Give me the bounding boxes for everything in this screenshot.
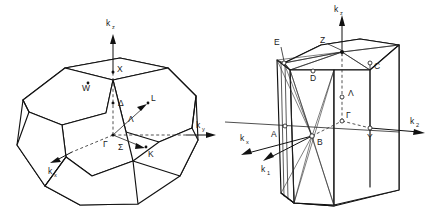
line-label-Lambda: Λ	[128, 114, 134, 124]
axis-label-k1-sub: 1	[267, 170, 270, 176]
point-Y-marker	[368, 126, 372, 130]
axis-label-k1-base: k	[261, 164, 266, 174]
point-delta-marker	[112, 102, 115, 105]
point-x-marker	[112, 71, 115, 74]
orthorhombic-zone-drawing: k z k 2 k x k 1	[224, 0, 447, 218]
axis-label-kz-base: k	[334, 4, 339, 14]
leader-E	[281, 47, 284, 61]
axis-label-kz-sub: z	[112, 24, 115, 30]
orthorhombic-brillouin-zone-panel: k z k 2 k x k 1	[224, 0, 447, 218]
point-label-Gamma: Γ	[346, 110, 351, 120]
line-label-Lambda: Λ	[348, 88, 354, 98]
axis-kz-arrowhead	[110, 34, 116, 44]
axis-label-kz-base: k	[106, 18, 111, 28]
point-label-Gamma: Γ	[103, 139, 108, 149]
point-label-E: E	[274, 37, 280, 47]
point-C-marker	[368, 61, 372, 65]
point-label-K: K	[148, 149, 154, 159]
point-label-C: C	[374, 61, 380, 71]
axis-kx-arrowhead	[241, 148, 252, 155]
point-label-A: A	[271, 129, 277, 139]
point-B-marker	[310, 134, 314, 138]
point-label-Y: Y	[367, 132, 373, 142]
point-label-X: X	[117, 64, 123, 74]
brillouin-zone-figure: k z k y k x	[0, 0, 447, 218]
fcc-brillouin-zone-panel: k z k y k x	[0, 0, 224, 218]
point-Gamma-marker	[340, 119, 344, 123]
axis-label-kx-sub: x	[54, 172, 57, 178]
axis-ky-arrowhead	[206, 132, 216, 138]
axis-label-k2-sub: 2	[416, 122, 419, 128]
axis-label-ky-sub: y	[202, 126, 205, 132]
axis-kz-arrowhead	[339, 15, 345, 26]
line-label-Delta: Δ	[118, 98, 124, 108]
axis-label-k2-base: k	[410, 116, 415, 126]
point-label-W: W	[82, 83, 90, 93]
point-E-marker	[282, 61, 286, 65]
point-label-Z: Z	[320, 35, 325, 45]
fcc-zone-drawing: k z k y k x	[0, 0, 224, 218]
point-Z-marker	[340, 50, 344, 54]
axis-k2-arrowhead	[413, 129, 425, 135]
point-k-marker	[145, 146, 148, 149]
point-label-L: L	[151, 93, 156, 103]
point-label-B: B	[317, 137, 323, 147]
point-A-marker	[283, 124, 287, 128]
point-l-marker	[147, 102, 150, 105]
point-Lambda-marker	[340, 95, 344, 99]
axis-k1-arrowhead	[263, 152, 274, 161]
point-gamma-marker	[111, 133, 114, 136]
axis-label-kx-sub: x	[246, 139, 249, 145]
line-label-Sigma: Σ	[118, 142, 123, 152]
axis-label-kx-base: k	[240, 133, 245, 143]
axis-label-ky-base: k	[196, 120, 201, 130]
axis-label-kz-sub: z	[340, 10, 343, 16]
point-label-D: D	[310, 73, 316, 83]
